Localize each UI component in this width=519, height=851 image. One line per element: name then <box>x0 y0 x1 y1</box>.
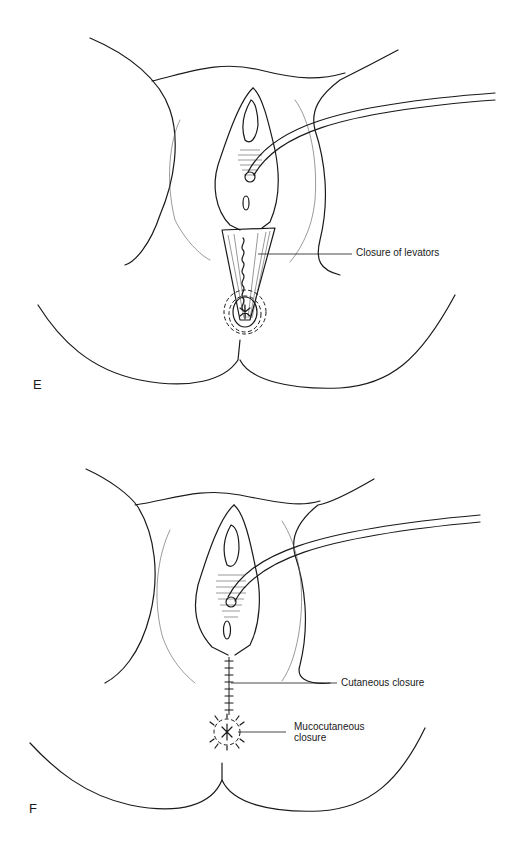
callout-closure-of-levators: Closure of levators <box>356 247 439 258</box>
left-lower-contour <box>38 305 240 384</box>
upper-contour <box>152 66 345 81</box>
anus-star <box>222 724 232 740</box>
left-lower-contour <box>30 743 222 809</box>
catheter-lower-line <box>235 522 480 601</box>
labia-left-outer <box>215 88 253 230</box>
right-buttock-outline <box>294 479 374 683</box>
catheter-upper-line <box>228 515 480 597</box>
clitoral-hood <box>224 525 239 566</box>
labia-left-outer <box>195 505 234 655</box>
panel-letter-e: E <box>33 377 42 392</box>
callout-cutaneous-closure: Cutaneous closure <box>341 677 424 688</box>
panel-letter-f: F <box>29 801 37 816</box>
callout-mucocutaneous-line2: closure <box>294 732 365 743</box>
panel-e-illustration <box>0 0 519 425</box>
levator-wedge <box>222 228 275 320</box>
right-buttock-outline <box>314 50 398 275</box>
clitoral-hood <box>243 100 258 142</box>
levator-suture <box>242 238 244 310</box>
left-buttock-outline <box>90 38 175 265</box>
catheter-upper-line <box>248 93 495 172</box>
panel-f-illustration <box>0 425 519 851</box>
panel-e: Closure of levators E <box>0 0 519 425</box>
right-lower-contour <box>240 295 455 388</box>
catheter-lower-line <box>254 100 495 175</box>
vaginal-opening <box>243 196 249 210</box>
vaginal-opening <box>224 621 231 639</box>
left-buttock-outline <box>86 469 155 683</box>
panel-f: Cutaneous closure Mucocutaneous closure … <box>0 425 519 851</box>
callout-mucocutaneous-closure: Mucocutaneous closure <box>294 721 365 743</box>
upper-contour <box>135 492 320 505</box>
callout-mucocutaneous-line1: Mucocutaneous <box>294 721 365 732</box>
